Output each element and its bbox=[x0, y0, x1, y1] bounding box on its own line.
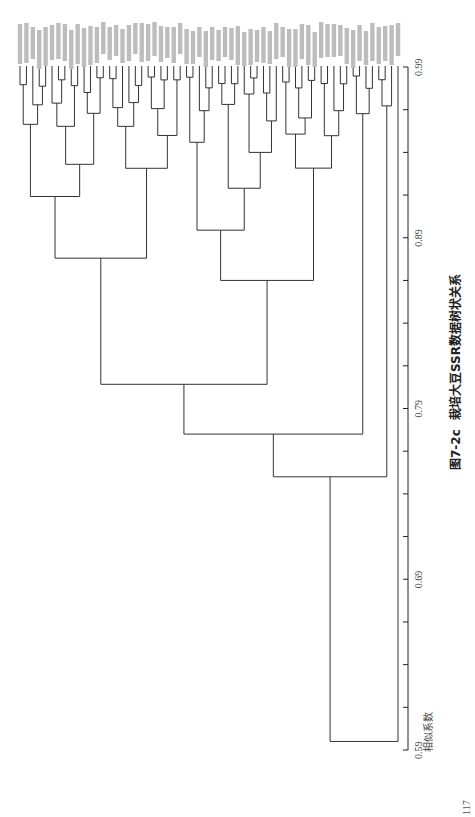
leaf-label bbox=[351, 30, 355, 68]
leaf-label bbox=[345, 28, 349, 64]
leaf-label bbox=[313, 32, 317, 67]
leaf-label bbox=[236, 26, 240, 65]
leaf-label bbox=[172, 27, 176, 63]
leaf-label bbox=[82, 28, 86, 67]
leaf-label bbox=[159, 26, 163, 62]
leaf-label bbox=[50, 25, 54, 60]
leaf-label bbox=[223, 27, 227, 57]
axis-tick-labels: 0.590.690.790.890.99 bbox=[413, 59, 424, 760]
axis-tick-label: 0.99 bbox=[413, 59, 424, 77]
leaf-label bbox=[133, 23, 137, 54]
leaf-label bbox=[389, 25, 393, 65]
leaf-label bbox=[101, 22, 105, 54]
leaf-label bbox=[261, 27, 265, 63]
leaf-labels bbox=[18, 22, 400, 69]
leaf-label bbox=[255, 30, 259, 62]
leaf-label bbox=[184, 29, 188, 64]
leaf-label bbox=[370, 23, 374, 61]
leaf-label bbox=[191, 31, 195, 64]
leaf-label bbox=[56, 23, 60, 59]
leaf-label bbox=[43, 27, 47, 66]
leaf-label bbox=[178, 23, 182, 54]
leaf-label bbox=[24, 23, 28, 63]
leaf-label bbox=[338, 25, 342, 56]
axis-tick-label: 0.79 bbox=[413, 400, 424, 418]
leaf-label bbox=[146, 24, 150, 61]
axis-tick-label: 0.69 bbox=[413, 571, 424, 589]
leaf-label bbox=[300, 24, 304, 59]
leaf-label bbox=[319, 22, 323, 58]
figure-caption-title: 栽培大豆SSR数据树状关系 bbox=[448, 274, 463, 420]
dendrogram-tree bbox=[20, 66, 398, 741]
leaf-label bbox=[165, 27, 169, 58]
leaf-label bbox=[364, 31, 368, 65]
leaf-label bbox=[268, 31, 272, 64]
leaf-label bbox=[332, 24, 336, 57]
leaf-label bbox=[69, 30, 73, 69]
leaf-label bbox=[210, 27, 214, 60]
leaf-label bbox=[140, 23, 144, 62]
leaf-label bbox=[396, 23, 400, 56]
page-number: 117 bbox=[461, 800, 472, 815]
leaf-label bbox=[306, 25, 310, 65]
leaf-label bbox=[107, 27, 111, 60]
figure-caption-number: 图7-2c bbox=[449, 429, 463, 470]
leaf-label bbox=[114, 25, 118, 56]
leaf-label bbox=[120, 29, 124, 63]
leaf-label bbox=[152, 22, 156, 56]
leaf-label bbox=[248, 29, 252, 65]
leaf-label bbox=[242, 32, 246, 66]
leaf-label bbox=[229, 28, 233, 60]
dendrogram-figure: 0.590.690.790.890.99 相似系数 图7-2c 栽培大豆SSR数… bbox=[0, 0, 475, 817]
leaf-label bbox=[293, 29, 297, 67]
leaf-label bbox=[357, 25, 361, 61]
leaf-label bbox=[37, 30, 41, 69]
leaf-label bbox=[216, 30, 220, 61]
leaf-label bbox=[377, 27, 381, 64]
leaf-label bbox=[127, 25, 131, 61]
leaf-label bbox=[197, 27, 201, 57]
leaf-label bbox=[287, 29, 291, 67]
leaf-label bbox=[204, 31, 208, 67]
axis-title: 相似系数 bbox=[422, 712, 434, 752]
leaf-label bbox=[75, 24, 79, 64]
leaf-label bbox=[325, 24, 329, 57]
leaf-label bbox=[383, 26, 387, 61]
leaf-label bbox=[63, 24, 67, 61]
leaf-label bbox=[88, 26, 92, 65]
leaf-label bbox=[31, 27, 35, 59]
leaf-label bbox=[18, 24, 22, 64]
similarity-axis bbox=[403, 67, 408, 750]
leaf-label bbox=[274, 23, 278, 59]
leaf-label bbox=[95, 27, 99, 63]
axis-tick-label: 0.89 bbox=[413, 229, 424, 247]
leaf-label bbox=[280, 27, 284, 57]
